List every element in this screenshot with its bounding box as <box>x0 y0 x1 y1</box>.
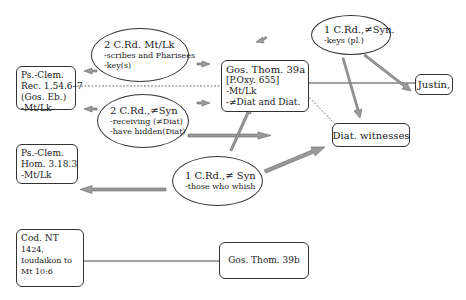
ellipse-text: -those who whish <box>185 182 262 192</box>
node-text: Ioudaikon to <box>21 255 79 266</box>
node-text: Gos. Thom. 39b <box>228 255 300 266</box>
node-text: Ps.-Clem. <box>21 70 71 81</box>
node-text: -Mt/Lk <box>226 86 304 97</box>
node-diat-witnesses: Diat. witnesses <box>332 123 410 147</box>
ellipse-title: 2 C.Rd.,≠Syn <box>110 105 188 117</box>
node-cod-nt: Cod. NT 1424, Ioudaikon to Mt 10:6 <box>16 229 84 287</box>
arrow-small-to-rec-upper <box>84 68 97 74</box>
ellipse-1crd-keys: 1 C.Rd.,≠Syn. -keys (pl.) <box>311 15 391 55</box>
dotted-connector-thom-diat <box>307 95 337 126</box>
node-text: Diat. witnesses <box>333 130 410 141</box>
arrow-long-2crd-to-diat <box>188 132 271 139</box>
ellipse-text: -keys (pl.) <box>324 36 390 46</box>
arrow-long-1crd-to-diat <box>264 147 325 173</box>
ellipse-1crd-whish: 1 C.Rd.,≠ Syn -those who whish <box>172 156 263 206</box>
ellipse-2crd-nesyn: 2 C.Rd.,≠Syn -receiving (≠Diat) -have hi… <box>97 94 189 148</box>
node-psclem-rec: Ps.-Clem. Rec. 1.54.6–7 (Gos. Eb.) -Mt/L… <box>16 66 76 110</box>
node-justin: Justin, <box>415 74 453 95</box>
arrow-long-1crd-to-hom <box>80 186 166 194</box>
node-text: -Mt/Lk <box>21 103 71 114</box>
node-psclem-hom: Ps.-Clem. Hom. 3.18.3 -Mt/Lk <box>16 144 78 184</box>
ellipse-text: -key(s) <box>104 61 188 71</box>
arrow-1crd-to-thom <box>230 106 251 151</box>
node-text: (Gos. Eb.) <box>21 92 71 103</box>
node-text: Justin, <box>418 79 450 90</box>
node-text: Gos. Thom. 39a <box>226 64 304 75</box>
node-gos-thom-39a: Gos. Thom. 39a [P.Oxy. 655] -Mt/Lk -≠Dia… <box>221 60 309 112</box>
arrow-keys-to-justin <box>364 54 411 91</box>
arrow-small-to-thom-upper <box>197 61 210 67</box>
ellipse-title: 1 C.Rd.,≠ Syn <box>185 170 262 182</box>
ellipse-title: 2 C.Rd. Mt/Lk <box>104 39 188 51</box>
ellipse-title: 1 C.Rd.,≠Syn. <box>324 24 390 36</box>
node-text: -Mt/Lk <box>21 170 73 181</box>
node-text: Ps.-Clem. <box>21 148 73 159</box>
ellipse-text: -have hidden(Diat) <box>110 127 188 137</box>
arrow-small-to-thom-lower <box>197 100 210 106</box>
node-gos-thom-39b: Gos. Thom. 39b <box>219 242 309 279</box>
node-text: Hom. 3.18.3 <box>21 159 73 170</box>
node-text: 1424, <box>21 244 79 255</box>
arrow-keys-to-diat <box>342 58 362 118</box>
arrow-small-to-rec-lower <box>84 106 97 112</box>
arrow-small-keys-to-thom <box>256 37 267 44</box>
node-text: Rec. 1.54.6–7 <box>21 81 71 92</box>
ellipse-text: -receiving (≠Diat) <box>110 117 188 127</box>
ellipse-text: -scribes and Pharisees <box>104 51 188 61</box>
node-text: -≠Diat and Diat. <box>226 97 304 108</box>
ellipse-2crd-mtlk: 2 C.Rd. Mt/Lk -scribes and Pharisees -ke… <box>91 28 189 82</box>
node-text: Cod. NT <box>21 233 79 244</box>
node-text: Mt 10:6 <box>21 266 79 277</box>
node-text: [P.Oxy. 655] <box>226 75 304 86</box>
